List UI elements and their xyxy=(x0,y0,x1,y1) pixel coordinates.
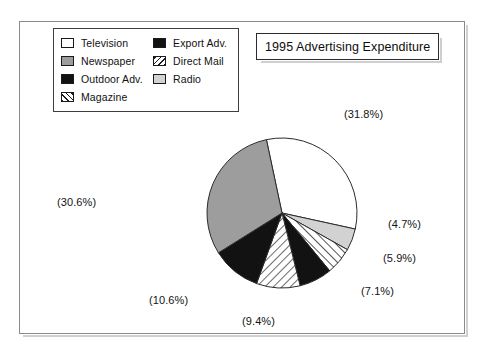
hatch-right-swatch-icon xyxy=(153,56,166,66)
legend-label-magazine: Magazine xyxy=(81,92,127,103)
legend-label-newspaper: Newspaper xyxy=(81,56,135,67)
legend-label-export-adv: Export Adv. xyxy=(173,38,227,49)
pie-slices xyxy=(207,138,357,288)
pie-slice-export-adv[interactable] xyxy=(282,213,330,286)
legend-label-television: Television xyxy=(81,38,128,49)
chart-title: 1995 Advertising Expenditure xyxy=(265,40,430,54)
legend-column-left: Television Newspaper Outdoor Adv. Magazi… xyxy=(61,34,153,106)
pct-label-magazine: (9.4%) xyxy=(242,315,275,327)
pie-slice-radio[interactable] xyxy=(282,213,355,250)
pie-slice-newspaper[interactable] xyxy=(207,140,282,253)
black-swatch-icon xyxy=(153,38,166,48)
legend-item-direct-mail[interactable]: Direct Mail xyxy=(153,52,232,70)
pct-label-outdoor-adv: (10.6%) xyxy=(149,294,188,306)
screenshot-root: Television Newspaper Outdoor Adv. Magazi… xyxy=(0,0,480,356)
pie-slice-magazine[interactable] xyxy=(257,213,301,288)
hatch-left-swatch-icon xyxy=(61,92,74,102)
legend-label-direct-mail: Direct Mail xyxy=(173,56,224,67)
legend-item-newspaper[interactable]: Newspaper xyxy=(61,52,153,70)
lightgray-swatch-icon xyxy=(153,74,166,84)
pie-slice-television[interactable] xyxy=(266,138,357,229)
legend-item-radio[interactable]: Radio xyxy=(153,70,232,88)
pct-label-newspaper: (30.6%) xyxy=(57,196,96,208)
white-swatch-icon xyxy=(61,38,74,48)
legend-item-magazine[interactable]: Magazine xyxy=(61,88,153,106)
chart-title-box: 1995 Advertising Expenditure xyxy=(256,33,439,60)
legend-item-television[interactable]: Television xyxy=(61,34,153,52)
black-swatch-icon xyxy=(61,74,74,84)
pct-label-export-adv: (7.1%) xyxy=(361,285,394,297)
pct-label-television: (31.8%) xyxy=(344,108,383,120)
legend-column-right: Export Adv. Direct Mail Radio xyxy=(153,34,232,106)
legend-item-export-adv[interactable]: Export Adv. xyxy=(153,34,232,52)
gray-swatch-icon xyxy=(61,56,74,66)
chart-frame: Television Newspaper Outdoor Adv. Magazi… xyxy=(19,21,465,334)
pct-label-direct-mail: (5.9%) xyxy=(383,252,416,264)
pie-slice-outdoor-adv[interactable] xyxy=(218,213,282,284)
legend-label-radio: Radio xyxy=(173,74,201,85)
pct-label-radio: (4.7%) xyxy=(388,218,421,230)
legend-label-outdoor-adv: Outdoor Adv. xyxy=(81,74,143,85)
legend: Television Newspaper Outdoor Adv. Magazi… xyxy=(53,28,239,112)
legend-item-outdoor-adv[interactable]: Outdoor Adv. xyxy=(61,70,153,88)
pie-slice-direct-mail[interactable] xyxy=(282,213,347,271)
